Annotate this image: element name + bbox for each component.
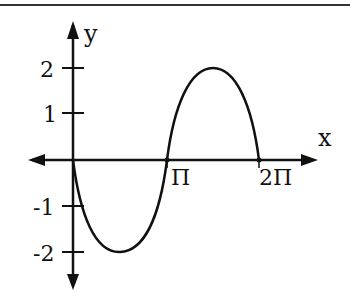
x-axis-left-arrow-icon: [28, 154, 45, 166]
y-tick-label-minus1: -1: [33, 195, 54, 220]
y-tick-label-minus2: -2: [33, 241, 54, 266]
x-tick-label-2pi: 2Π: [259, 165, 292, 190]
y-tick-label-1: 1: [43, 102, 57, 127]
y-axis-label: y: [83, 20, 98, 48]
x-axis-right-arrow-icon: [301, 154, 318, 166]
y-axis-down-arrow-icon: [67, 274, 79, 290]
point-pi: [165, 158, 170, 163]
x-axis-label: x: [318, 124, 332, 152]
point-2pi: [257, 158, 262, 163]
y-axis-up-arrow-icon: [67, 21, 79, 39]
sine-graph: y x 2 1 -1 -2 Π 2Π: [0, 0, 350, 293]
x-tick-label-pi: Π: [171, 165, 190, 190]
y-tick-label-2: 2: [40, 57, 54, 82]
